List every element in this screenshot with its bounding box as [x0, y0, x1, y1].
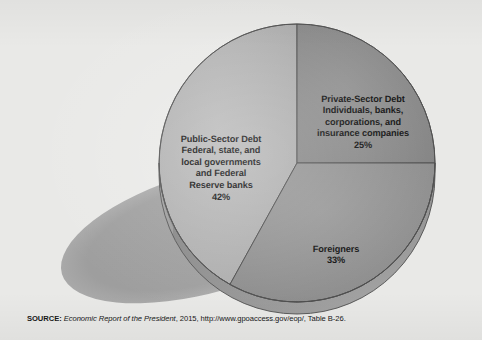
source-rest: , 2015, http://www.gpoaccess.gov/eop/, T… — [176, 314, 346, 323]
source-note: SOURCE: Economic Report of the President… — [27, 314, 457, 324]
source-title: Economic Report of the President — [64, 314, 176, 323]
pie-chart-3d — [0, 0, 482, 340]
pie-top-faces — [159, 24, 435, 302]
figure-panel: Public-Sector Debt Federal, state, and l… — [0, 0, 482, 340]
pie-slice-private-sector — [297, 24, 435, 163]
source-label: SOURCE: — [27, 314, 62, 323]
